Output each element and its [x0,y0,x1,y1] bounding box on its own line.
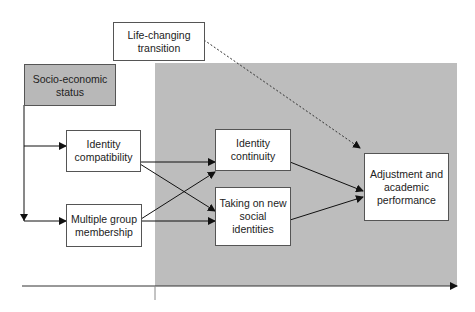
box-identity-compatibility: Identity compatibility [66,130,141,172]
box-multiple-group-membership: Multiple group membership [66,204,142,247]
label-ses: Socio-economic status [27,73,113,99]
label-outcome: Adjustment and academic performance [367,168,446,207]
box-life-changing-transition: Life-changing transition [113,22,205,61]
label-multiple: Multiple group membership [69,213,139,239]
box-adjustment-performance: Adjustment and academic performance [364,153,449,221]
label-new: Taking on new social identities [218,197,288,236]
arrow-compat-to-new [140,164,215,211]
arrow-multiple-to-continuity [141,172,215,219]
arrow-new-to-outcome [290,197,363,220]
arrow-continuity-to-outcome [290,162,363,191]
label-continuity: Identity continuity [218,137,288,163]
box-new-social-identities: Taking on new social identities [215,187,291,246]
box-identity-continuity: Identity continuity [215,129,291,171]
label-life-changing: Life-changing transition [116,29,202,55]
label-compat: Identity compatibility [69,138,138,164]
box-socio-economic-status: Socio-economic status [24,64,116,106]
